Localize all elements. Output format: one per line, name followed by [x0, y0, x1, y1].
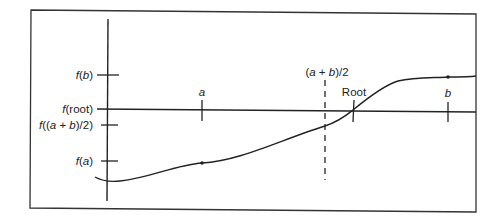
y-axis [107, 19, 108, 201]
label-fmid: f((a + b)/2) [39, 119, 93, 131]
label-a: a [199, 86, 205, 98]
label-froot: f(root) [62, 103, 93, 115]
label-fb: f(b) [76, 69, 93, 81]
label-b: b [445, 87, 452, 99]
bisection-diagram: f(b) f(root) f((a + b)/2) f(a) a b Root … [0, 0, 500, 221]
function-curve [95, 76, 476, 181]
point-a-marker [200, 161, 204, 165]
label-midpoint: (a + b)/2 [305, 66, 348, 78]
label-fa: f(a) [76, 155, 93, 167]
x-axis [97, 109, 476, 112]
label-root: Root [342, 86, 367, 98]
tick-root [353, 100, 354, 122]
point-b-marker [446, 75, 450, 79]
